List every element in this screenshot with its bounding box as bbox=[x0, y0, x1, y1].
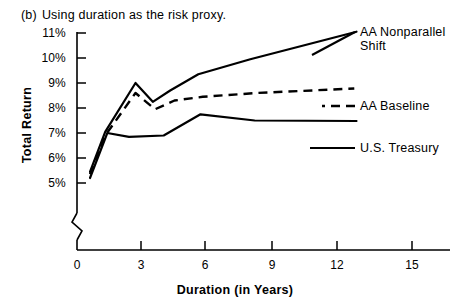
series-line-us-treasury bbox=[90, 114, 357, 178]
series-line-aa-baseline bbox=[90, 89, 354, 175]
leader-line-aa-nonparallel bbox=[312, 32, 355, 55]
y-axis-break-icon bbox=[72, 213, 82, 240]
chart-plot-area bbox=[0, 0, 470, 308]
chart-figure: (b)Using duration as the risk proxy. Tot… bbox=[0, 0, 470, 308]
